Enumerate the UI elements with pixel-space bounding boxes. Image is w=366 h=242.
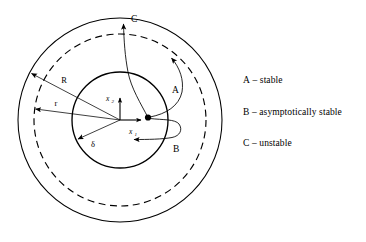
radius-r-line: [36, 109, 121, 120]
svg-text:x: x: [128, 127, 133, 136]
legend-key-A: A: [243, 75, 250, 85]
legend-dash-B: –: [249, 107, 259, 117]
legend-description-A: stable: [260, 75, 283, 85]
radius-label-r: r: [55, 98, 58, 108]
legend-item-A: A–stable: [243, 76, 365, 86]
legend-dash-C: –: [249, 138, 259, 148]
legend-panel: A–stable B–asymptotically stable C–unsta…: [243, 76, 365, 149]
svg-text:1: 1: [135, 132, 138, 137]
svg-text:2: 2: [112, 99, 115, 104]
radius-delta-line: [78, 120, 120, 139]
svg-text:x: x: [105, 94, 110, 103]
trajectory-label-A: A: [172, 85, 179, 95]
radius-label-R: R: [61, 75, 67, 85]
legend-item-C: C–unstable: [243, 139, 365, 149]
figure-root: R r δ x 2 x 1 C A B A–stable B–asymptoti…: [0, 0, 366, 242]
legend-item-B: B–asymptotically stable: [243, 108, 365, 118]
trajectory-B-path: [134, 119, 181, 140]
trajectory-label-B: B: [173, 144, 179, 154]
legend-description-B: asymptotically stable: [259, 107, 342, 117]
axis-label-x2: x 2: [105, 94, 115, 104]
trajectory-label-C: C: [131, 14, 137, 24]
axis-label-x1: x 1: [128, 127, 137, 137]
legend-description-C: unstable: [259, 138, 291, 148]
legend-dash-A: –: [250, 75, 260, 85]
radius-label-delta: δ: [91, 139, 95, 149]
